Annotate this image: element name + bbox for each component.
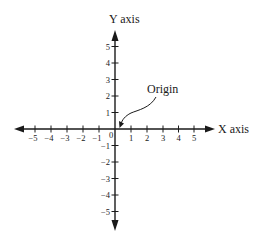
x-tick-label: −2 [76, 133, 85, 143]
y-tick-label: −4 [101, 190, 111, 200]
x-axis-right-arrow-icon [205, 126, 215, 133]
y-tick-label: −1 [101, 141, 110, 151]
y-axis-up-arrow-icon [112, 30, 119, 41]
x-tick-label: 5 [192, 133, 196, 143]
origin-zero-label: 0 [109, 130, 113, 140]
x-tick-label: 3 [161, 133, 165, 143]
x-axis-left-arrow-icon [14, 126, 24, 133]
x-tick-label: 2 [145, 133, 149, 143]
y-tick-label: 4 [106, 58, 111, 68]
x-tick-label: 1 [129, 133, 133, 143]
y-axis-title: Y axis [109, 12, 140, 26]
x-tick-label: −4 [44, 133, 54, 143]
x-tick-label: −3 [60, 133, 69, 143]
y-tick-label: −5 [101, 207, 110, 217]
y-axis-down-arrow-icon [112, 220, 119, 231]
origin-annotation-label: Origin [147, 82, 178, 96]
x-tick-label: 4 [176, 133, 181, 143]
origin-pointer-curve [121, 97, 156, 124]
y-tick-label: 1 [106, 108, 110, 118]
coordinate-axes-diagram: −5 −4 −3 −2 −1 1 2 3 4 5 0 5 4 3 2 1 −1 … [0, 0, 267, 237]
y-tick-label: 2 [106, 91, 110, 101]
y-tick-label: 5 [106, 42, 110, 52]
x-axis-title: X axis [218, 122, 249, 136]
x-tick-label: −5 [28, 133, 37, 143]
y-tick-label: −3 [101, 174, 110, 184]
y-tick-label: −2 [101, 157, 110, 167]
y-tick-label: 3 [106, 75, 110, 85]
